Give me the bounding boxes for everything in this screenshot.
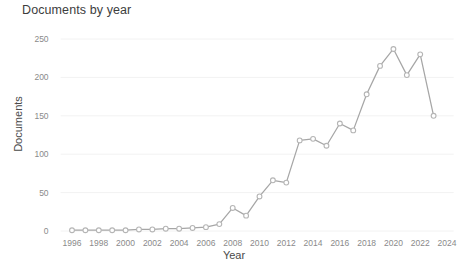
plot-area: 050100150200250 199619982000200220042006… bbox=[0, 0, 468, 267]
data-point-marker[interactable] bbox=[244, 213, 249, 218]
y-axis-tick-200: 200 bbox=[23, 72, 49, 82]
data-point-marker[interactable] bbox=[391, 47, 396, 52]
y-axis-label: Documents bbox=[12, 84, 24, 164]
series-line-documents bbox=[72, 49, 434, 230]
data-point-marker[interactable] bbox=[137, 227, 142, 232]
data-point-marker[interactable] bbox=[190, 226, 195, 231]
data-point-marker[interactable] bbox=[96, 228, 101, 233]
y-axis-tick-50: 50 bbox=[23, 188, 49, 198]
data-point-marker[interactable] bbox=[311, 136, 316, 141]
data-point-marker[interactable] bbox=[284, 180, 289, 185]
x-axis-label: Year bbox=[0, 249, 468, 261]
data-point-marker[interactable] bbox=[364, 92, 369, 97]
data-point-marker[interactable] bbox=[163, 226, 168, 231]
data-point-marker[interactable] bbox=[257, 194, 262, 199]
y-axis-tick-0: 0 bbox=[23, 226, 49, 236]
data-point-marker[interactable] bbox=[123, 228, 128, 233]
y-axis-tick-100: 100 bbox=[23, 149, 49, 159]
data-point-marker[interactable] bbox=[217, 222, 222, 227]
data-point-marker[interactable] bbox=[83, 228, 88, 233]
data-point-marker[interactable] bbox=[337, 121, 342, 126]
data-point-marker[interactable] bbox=[404, 73, 409, 78]
data-point-marker[interactable] bbox=[418, 52, 423, 57]
data-point-marker[interactable] bbox=[150, 227, 155, 232]
documents-by-year-chart: Documents by year 050100150200250 199619… bbox=[0, 0, 468, 267]
data-point-marker[interactable] bbox=[431, 113, 436, 118]
data-point-marker[interactable] bbox=[270, 178, 275, 183]
y-axis-tick-250: 250 bbox=[23, 34, 49, 44]
y-axis-tick-150: 150 bbox=[23, 111, 49, 121]
data-point-marker[interactable] bbox=[110, 228, 115, 233]
data-point-marker[interactable] bbox=[230, 206, 235, 211]
data-point-marker[interactable] bbox=[378, 63, 383, 68]
data-point-marker[interactable] bbox=[351, 128, 356, 133]
data-point-marker[interactable] bbox=[177, 226, 182, 231]
chart-canvas bbox=[0, 0, 468, 267]
data-point-marker[interactable] bbox=[70, 228, 75, 233]
data-point-marker[interactable] bbox=[204, 225, 209, 230]
x-axis-tick-2024: 2024 bbox=[430, 238, 464, 248]
data-point-marker[interactable] bbox=[297, 138, 302, 143]
data-point-marker[interactable] bbox=[324, 143, 329, 148]
